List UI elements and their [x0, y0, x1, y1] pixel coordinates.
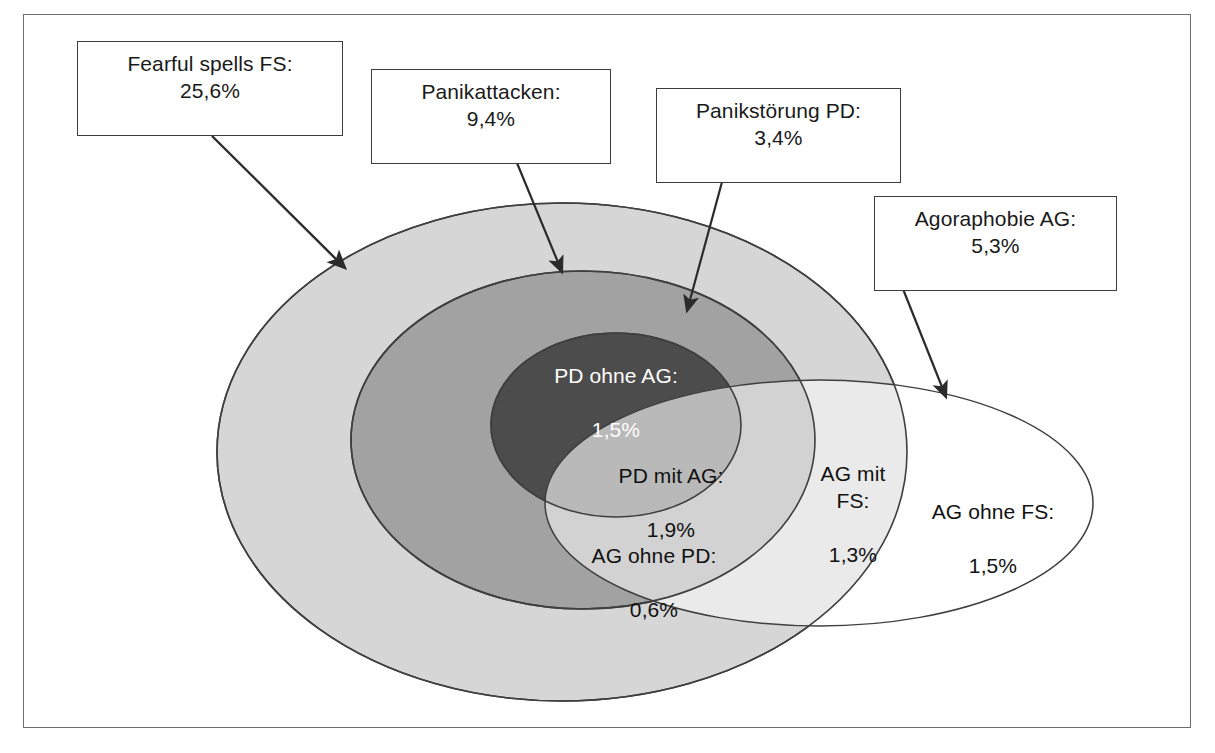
callout-agoraphobie-title: Agoraphobie AG: [915, 207, 1076, 230]
callout-agoraphobie[interactable]: Agoraphobie AG: 5,3% [874, 196, 1117, 291]
region-label-pd-mit-ag-title: PD mit AG: [586, 463, 756, 490]
callout-panikstoerung-value: 3,4% [657, 125, 900, 152]
callout-fearful-spells[interactable]: Fearful spells FS: 25,6% [77, 41, 343, 136]
region-label-pd-ohne-ag-title: PD ohne AG: [521, 363, 711, 390]
region-label-ag-mit-fs: AG mit FS: 1,3% [805, 434, 901, 595]
region-label-ag-ohne-fs-value: 1,5% [913, 553, 1073, 580]
region-label-ag-ohne-fs: AG ohne FS: 1,5% [913, 472, 1073, 606]
callout-panikattacken-value: 9,4% [372, 106, 610, 133]
callout-fearful-spells-title: Fearful spells FS: [127, 52, 292, 75]
region-label-ag-mit-fs-value: 1,3% [805, 542, 901, 569]
callout-agoraphobie-value: 5,3% [875, 233, 1116, 260]
callout-panikattacken[interactable]: Panikattacken: 9,4% [371, 69, 611, 164]
callout-fearful-spells-value: 25,6% [78, 78, 342, 105]
region-label-ag-ohne-pd-title: AG ohne PD: [559, 543, 749, 570]
region-label-ag-ohne-pd-value: 0,6% [559, 597, 749, 624]
callout-panikstoerung[interactable]: Panikstörung PD: 3,4% [656, 88, 901, 183]
region-label-ag-ohne-pd: AG ohne PD: 0,6% [559, 516, 749, 650]
venn-figure: Fearful spells FS: 25,6% Panikattacken: … [0, 0, 1215, 753]
region-label-ag-mit-fs-title: AG mit FS: [805, 461, 901, 515]
region-label-ag-ohne-fs-title: AG ohne FS: [913, 499, 1073, 526]
callout-panikattacken-title: Panikattacken: [421, 80, 560, 103]
callout-panikstoerung-title: Panikstörung PD: [696, 99, 861, 122]
